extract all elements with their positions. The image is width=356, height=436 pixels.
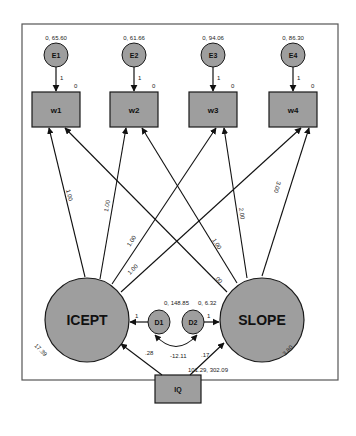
observed-w3: w3 xyxy=(189,92,237,127)
d2-path-label: 1 xyxy=(207,313,211,319)
e3-label: E3 xyxy=(209,52,218,59)
w4-intercept: 0 xyxy=(311,83,315,89)
e4-label: E4 xyxy=(289,52,298,59)
e1-estimate: 0, 65.60 xyxy=(45,35,67,41)
w2-intercept: 0 xyxy=(152,83,156,89)
svg-text:D1: D1 xyxy=(155,319,164,326)
e2-estimate: 0, 61.66 xyxy=(123,35,145,41)
latent-icept: ICEPT 17.39 xyxy=(33,278,129,362)
covariance-label: -12.11 xyxy=(170,353,187,359)
e3-path-label: 1 xyxy=(217,75,221,81)
error-e3: 0, 94.06 E3 1 0 xyxy=(201,35,235,91)
icept-intercept: 17.39 xyxy=(33,342,48,357)
e4-estimate: 0, 86.30 xyxy=(282,35,304,41)
loading-icept-w4: 1.00 xyxy=(126,263,139,276)
observed-w2: w2 xyxy=(110,92,158,127)
error-e4: 0, 86.30 E4 1 0 xyxy=(281,35,315,91)
latent-slope: SLOPE 3.80 xyxy=(220,278,304,362)
iq-to-slope-label: .17 xyxy=(201,352,210,358)
e2-label: E2 xyxy=(130,52,139,59)
observed-w4: w4 xyxy=(269,92,317,127)
sem-diagram: 0, 65.60 E1 1 0 0, 61.66 E2 1 0 0, 94.06… xyxy=(0,0,356,436)
svg-text:w4: w4 xyxy=(287,106,299,115)
e3-estimate: 0, 94.06 xyxy=(202,35,224,41)
disturbance-d1: D1 1 0, 148.85 xyxy=(130,300,190,334)
observed-w1: w1 xyxy=(32,92,80,127)
w1-intercept: 0 xyxy=(74,83,78,89)
svg-text:ICEPT: ICEPT xyxy=(66,312,108,328)
d1-path-label: 1 xyxy=(135,313,139,319)
svg-text:SLOPE: SLOPE xyxy=(238,312,285,328)
error-e2: 0, 61.66 E2 1 0 xyxy=(122,35,156,91)
iq-estimate: 101.29, 302.09 xyxy=(188,367,229,373)
e1-label: E1 xyxy=(52,52,61,59)
svg-text:w2: w2 xyxy=(128,106,140,115)
loading-icept-w2: 1.00 xyxy=(103,199,111,212)
e2-path-label: 1 xyxy=(138,75,142,81)
svg-text:D2: D2 xyxy=(189,319,198,326)
d2-estimate: 0, 6.32 xyxy=(198,300,217,306)
e4-path-label: 1 xyxy=(297,75,301,81)
loading-icept-w3: 1.00 xyxy=(126,234,138,248)
svg-text:IQ: IQ xyxy=(174,386,182,394)
loading-slope-w1: .00 xyxy=(213,274,224,285)
svg-text:w1: w1 xyxy=(50,106,62,115)
loading-slope-w3: 2.00 xyxy=(238,207,246,220)
predictor-iq: IQ 101.29, 302.09 .28 .17 xyxy=(121,343,229,403)
e1-path-label: 1 xyxy=(60,75,64,81)
covariance-arc xyxy=(155,335,197,347)
error-e1: 0, 65.60 E1 1 0 xyxy=(44,35,78,91)
w3-intercept: 0 xyxy=(231,83,235,89)
loading-slope-w4: 3.00 xyxy=(273,181,282,194)
icept-loadings xyxy=(49,128,301,292)
svg-text:w3: w3 xyxy=(207,106,219,115)
iq-to-icept-label: .28 xyxy=(145,350,154,356)
d1-estimate: 0, 148.85 xyxy=(164,300,190,306)
